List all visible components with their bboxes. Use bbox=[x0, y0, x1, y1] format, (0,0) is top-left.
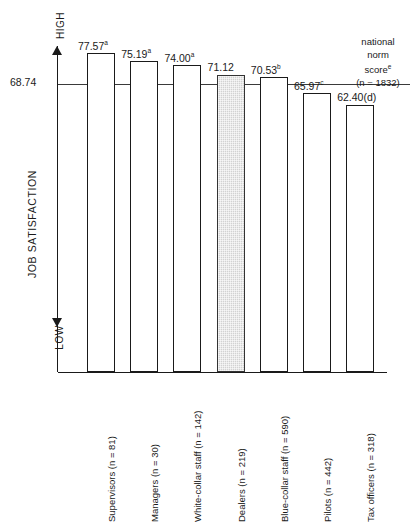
national-norm-annotation: national norm scoree (n = 1832) bbox=[342, 36, 414, 89]
value-superscript-0: a bbox=[104, 39, 108, 46]
x-axis-baseline bbox=[58, 372, 387, 373]
category-label-0: Supervisors (n = 81) bbox=[106, 436, 117, 522]
value-label-3: 71.12 bbox=[208, 61, 234, 73]
bar-1[interactable] bbox=[130, 61, 158, 372]
category-label-5: Pilots (n = 442) bbox=[322, 458, 333, 522]
plot-area: 77.57a75.19a74.00a71.1270.53b65.97c62.40… bbox=[58, 40, 408, 373]
category-label-6: Tax officers (n = 318) bbox=[365, 433, 376, 522]
bar-3[interactable] bbox=[217, 75, 245, 372]
bar-2[interactable] bbox=[173, 65, 201, 372]
category-label-3: Dealers (n = 219) bbox=[236, 448, 247, 522]
value-superscript-2: a bbox=[191, 51, 195, 58]
value-text-4: 70.53 bbox=[251, 63, 277, 75]
norm-line-3: scoree bbox=[342, 61, 414, 77]
category-label-1: Managers (n = 30) bbox=[149, 444, 160, 522]
value-superscript-4: b bbox=[277, 63, 281, 70]
value-superscript-5: c bbox=[320, 79, 323, 86]
value-text-0: 77.57 bbox=[78, 39, 104, 51]
norm-line-4: (n = 1832) bbox=[342, 77, 414, 90]
reference-line-value: 68.74 bbox=[10, 76, 36, 88]
value-label-4: 70.53b bbox=[251, 63, 281, 76]
norm-superscript: e bbox=[388, 63, 392, 70]
job-satisfaction-bar-chart: JOB SATISFACTION HIGH LOW 68.74 77.57a75… bbox=[0, 0, 418, 529]
bar-4[interactable] bbox=[260, 77, 288, 372]
bar-5[interactable] bbox=[303, 93, 331, 372]
value-text-2: 74.00 bbox=[164, 51, 190, 63]
bar-6[interactable] bbox=[346, 105, 374, 372]
value-superscript-1: a bbox=[147, 47, 151, 54]
value-label-1: 75.19a bbox=[121, 47, 151, 60]
category-label-4: Blue-collar staff (n = 590) bbox=[279, 416, 290, 522]
bar-0[interactable] bbox=[87, 53, 115, 372]
value-text-5: 65.97 bbox=[294, 79, 320, 91]
value-label-5: 65.97c bbox=[294, 79, 324, 92]
norm-line-2: norm bbox=[342, 49, 414, 62]
value-text-1: 75.19 bbox=[121, 47, 147, 59]
norm-score-text: score bbox=[365, 64, 388, 75]
value-label-6: 62.40(d) bbox=[337, 91, 376, 103]
y-axis-title: JOB SATISFACTION bbox=[26, 144, 38, 304]
value-text-3: 71.12 bbox=[208, 61, 234, 73]
value-label-0: 77.57a bbox=[78, 39, 108, 52]
value-text-6: 62.40(d) bbox=[337, 91, 376, 103]
norm-line-1: national bbox=[342, 36, 414, 49]
value-label-2: 74.00a bbox=[164, 51, 194, 64]
category-label-2: White-collar staff (n = 142) bbox=[192, 411, 203, 523]
